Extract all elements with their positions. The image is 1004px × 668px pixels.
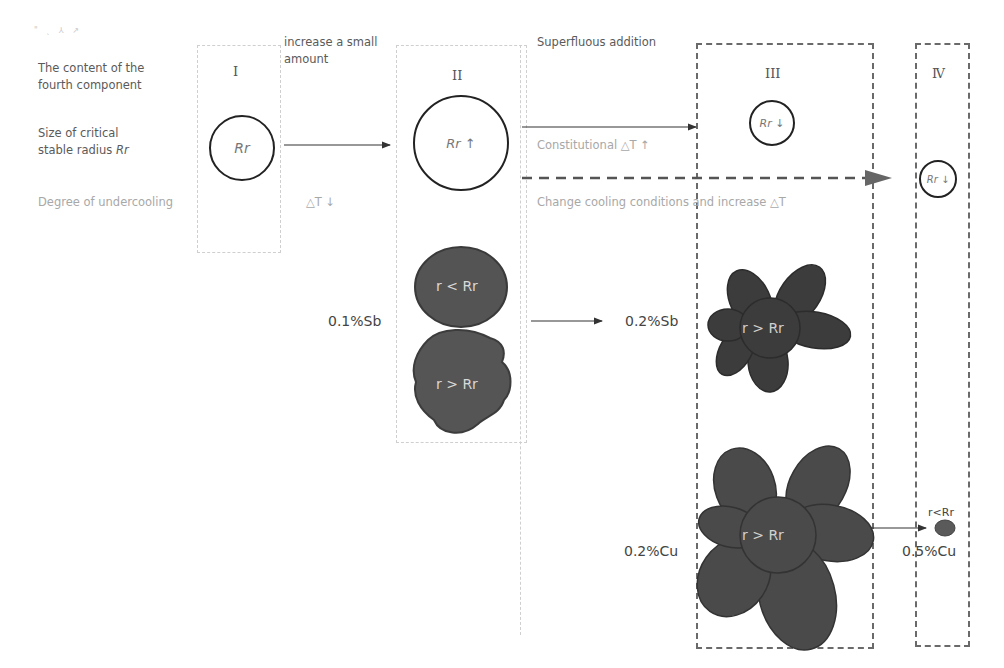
grain-cu05-small xyxy=(935,520,955,536)
grain-label-cu05-small: r<Rr xyxy=(928,506,954,519)
diagram-graphics xyxy=(0,0,1004,668)
grain-label-sb01-round: r < Rr xyxy=(436,278,478,294)
grain-label-sb01-round-text: r < Rr xyxy=(436,278,478,294)
arrow-II-to-IV-head xyxy=(865,170,892,186)
grain-label-sb01-irregular: r > Rr xyxy=(436,376,478,392)
grain-label-cu05-small-text: r<Rr xyxy=(928,506,954,519)
grain-label-sb01-irregular-text: r > Rr xyxy=(436,376,478,392)
grain-label-cu02-flower: r > Rr xyxy=(742,527,784,543)
grain-cu02-flower xyxy=(682,435,878,659)
grain-label-cu02-flower-text: r > Rr xyxy=(742,527,784,543)
grain-label-sb02-flower-text: r > Rr xyxy=(742,320,784,336)
grain-label-sb02-flower: r > Rr xyxy=(742,320,784,336)
